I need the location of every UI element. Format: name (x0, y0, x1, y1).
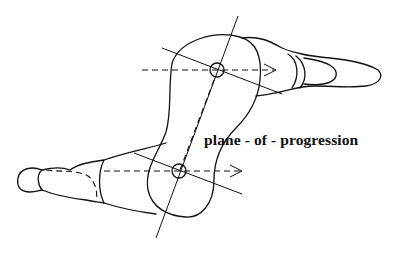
transverse-axis-upper (162, 48, 282, 94)
foot-upper-right-toe (304, 58, 336, 85)
plane-of-progression-label: plane - of - progression (204, 131, 358, 149)
foot-upper-right-inner (288, 54, 297, 88)
gait-diagram (0, 0, 394, 260)
foot-lower-left-mid (38, 160, 104, 203)
transverse-axis-lower (134, 153, 242, 194)
long-axis (156, 16, 238, 238)
foot-lower-left-inner (46, 170, 97, 200)
long-axis-dash (180, 80, 214, 170)
foot-upper-right (242, 37, 381, 96)
limb-segment-outline (147, 35, 260, 217)
